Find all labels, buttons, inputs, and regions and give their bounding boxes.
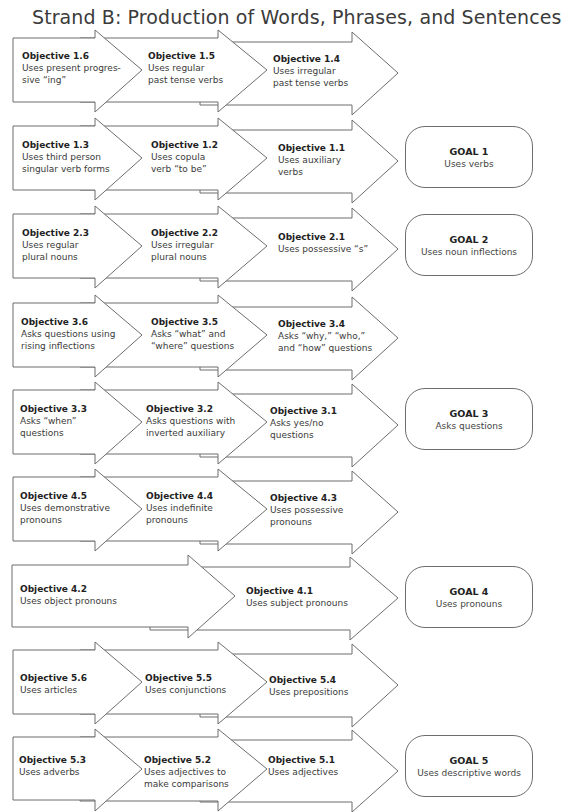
- objective-id: Objective 5.5: [145, 672, 226, 684]
- objective-text: Asks “when” questions: [20, 415, 87, 439]
- objective-2-3: Objective 2.3 Uses regular plural nouns: [22, 227, 89, 263]
- objective-id: Objective 5.3: [19, 754, 86, 766]
- objective-text: Uses present progres- sive “ing”: [22, 62, 121, 86]
- objective-3-4: Objective 3.4 Asks “why,” “who,” and “ho…: [278, 318, 372, 354]
- objective-1-2: Objective 1.2 Uses copula verb “to be”: [151, 139, 218, 175]
- objective-5-6: Objective 5.6 Uses articles: [20, 672, 87, 696]
- goal-title: GOAL 1: [406, 145, 532, 158]
- objective-id: Objective 5.1: [268, 754, 338, 766]
- objective-id: Objective 4.1: [246, 585, 348, 597]
- objective-text: Uses irregular plural nouns: [151, 239, 218, 263]
- objective-text: Uses subject pronouns: [246, 597, 348, 609]
- objective-text: Uses possessive “s”: [278, 243, 368, 255]
- objective-id: Objective 3.2: [146, 403, 235, 415]
- objective-1-6: Objective 1.6 Uses present progres- sive…: [22, 50, 121, 86]
- objective-text: Uses adjectives: [268, 766, 338, 778]
- goal-title: GOAL 5: [406, 754, 532, 767]
- goal-4-box: GOAL 4 Uses pronouns: [405, 566, 533, 628]
- objective-text: Uses possessive pronouns: [270, 504, 343, 528]
- objective-3-1: Objective 3.1 Asks yes/no questions: [270, 405, 337, 441]
- objective-id: Objective 2.3: [22, 227, 89, 239]
- goal-3-box: GOAL 3 Asks questions: [405, 388, 533, 450]
- objective-id: Objective 5.2: [144, 754, 229, 766]
- objective-id: Objective 5.6: [20, 672, 87, 684]
- goal-text: Uses pronouns: [406, 598, 532, 610]
- objective-id: Objective 1.3: [22, 139, 110, 151]
- objective-3-5: Objective 3.5 Asks “what” and “where” qu…: [151, 316, 234, 352]
- objective-id: Objective 3.1: [270, 405, 337, 417]
- objective-text: Uses irregular past tense verbs: [273, 65, 348, 89]
- objective-text: Uses regular past tense verbs: [148, 62, 223, 86]
- objective-1-3: Objective 1.3 Uses third person singular…: [22, 139, 110, 175]
- objective-text: Asks “why,” “who,” and “how” questions: [278, 330, 372, 354]
- objective-5-3: Objective 5.3 Uses adverbs: [19, 754, 86, 778]
- objective-text: Uses conjunctions: [145, 684, 226, 696]
- goal-1-box: GOAL 1 Uses verbs: [405, 126, 533, 188]
- goal-text: Asks questions: [406, 420, 532, 432]
- objective-4-4: Objective 4.4 Uses indefinite pronouns: [146, 490, 213, 526]
- objective-4-1: Objective 4.1 Uses subject pronouns: [246, 585, 348, 609]
- objective-5-2: Objective 5.2 Uses adjectives to make co…: [144, 754, 229, 790]
- objective-id: Objective 4.5: [20, 490, 110, 502]
- objective-id: Objective 3.3: [20, 403, 87, 415]
- objective-text: Asks questions using rising inflections: [21, 328, 115, 352]
- objective-3-2: Objective 3.2 Asks questions with invert…: [146, 403, 235, 439]
- objective-text: Uses copula verb “to be”: [151, 151, 218, 175]
- objective-text: Uses demonstrative pronouns: [20, 502, 110, 526]
- goal-text: Uses noun inflections: [406, 246, 532, 258]
- goal-text: Uses descriptive words: [406, 767, 532, 779]
- goal-5-box: GOAL 5 Uses descriptive words: [405, 735, 533, 797]
- objective-5-5: Objective 5.5 Uses conjunctions: [145, 672, 226, 696]
- objective-id: Objective 4.2: [20, 583, 117, 595]
- objective-4-3: Objective 4.3 Uses possessive pronouns: [270, 492, 343, 528]
- objective-id: Objective 3.4: [278, 318, 372, 330]
- goal-title: GOAL 4: [406, 585, 532, 598]
- objective-id: Objective 5.4: [269, 674, 348, 686]
- objective-id: Objective 1.1: [278, 142, 345, 154]
- objective-id: Objective 3.6: [21, 316, 115, 328]
- objective-4-5: Objective 4.5 Uses demonstrative pronoun…: [20, 490, 110, 526]
- objective-3-3: Objective 3.3 Asks “when” questions: [20, 403, 87, 439]
- goal-title: GOAL 3: [406, 407, 532, 420]
- objective-id: Objective 2.2: [151, 227, 218, 239]
- objective-text: Uses indefinite pronouns: [146, 502, 213, 526]
- objective-id: Objective 4.4: [146, 490, 213, 502]
- objective-text: Uses object pronouns: [20, 595, 117, 607]
- objective-text: Uses auxiliary verbs: [278, 154, 345, 178]
- objective-id: Objective 1.6: [22, 50, 121, 62]
- objective-1-5: Objective 1.5 Uses regular past tense ve…: [148, 50, 223, 86]
- objective-3-6: Objective 3.6 Asks questions using risin…: [21, 316, 115, 352]
- objective-text: Uses adverbs: [19, 766, 86, 778]
- objective-text: Asks questions with inverted auxiliary: [146, 415, 235, 439]
- objective-text: Uses adjectives to make comparisons: [144, 766, 229, 790]
- objective-text: Uses prepositions: [269, 686, 348, 698]
- objective-text: Uses third person singular verb forms: [22, 151, 110, 175]
- objective-id: Objective 1.4: [273, 53, 348, 65]
- objective-2-2: Objective 2.2 Uses irregular plural noun…: [151, 227, 218, 263]
- objective-5-4: Objective 5.4 Uses prepositions: [269, 674, 348, 698]
- objective-text: Asks yes/no questions: [270, 417, 337, 441]
- goal-text: Uses verbs: [406, 158, 532, 170]
- objective-text: Uses articles: [20, 684, 87, 696]
- objective-id: Objective 4.3: [270, 492, 343, 504]
- goal-2-box: GOAL 2 Uses noun inflections: [405, 214, 533, 276]
- goal-title: GOAL 2: [406, 233, 532, 246]
- objective-1-1: Objective 1.1 Uses auxiliary verbs: [278, 142, 345, 178]
- objective-2-1: Objective 2.1 Uses possessive “s”: [278, 231, 368, 255]
- objective-5-1: Objective 5.1 Uses adjectives: [268, 754, 338, 778]
- objective-id: Objective 2.1: [278, 231, 368, 243]
- objective-1-4: Objective 1.4 Uses irregular past tense …: [273, 53, 348, 89]
- objective-id: Objective 1.2: [151, 139, 218, 151]
- objective-id: Objective 3.5: [151, 316, 234, 328]
- objective-id: Objective 1.5: [148, 50, 223, 62]
- objective-4-2: Objective 4.2 Uses object pronouns: [20, 583, 117, 607]
- objective-text: Asks “what” and “where” questions: [151, 328, 234, 352]
- objective-text: Uses regular plural nouns: [22, 239, 89, 263]
